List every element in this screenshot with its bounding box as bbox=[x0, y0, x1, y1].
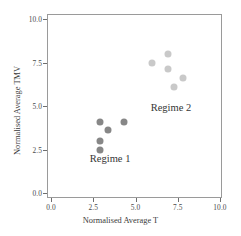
data-point bbox=[171, 83, 178, 90]
data-point bbox=[97, 137, 104, 144]
x-tick-label: 5.0 bbox=[131, 203, 141, 212]
data-point bbox=[179, 75, 186, 82]
y-tick-mark bbox=[43, 19, 47, 20]
x-tick-label: 10.0 bbox=[213, 203, 226, 212]
x-tick-label: 2.5 bbox=[88, 203, 98, 212]
cluster-label: Regime 1 bbox=[90, 153, 131, 164]
cluster-label: Regime 2 bbox=[151, 102, 192, 113]
data-point bbox=[164, 50, 171, 57]
data-point bbox=[97, 146, 104, 153]
data-point bbox=[149, 59, 156, 66]
x-tick-mark bbox=[51, 198, 52, 202]
x-tick-mark bbox=[93, 198, 94, 202]
x-tick-label: 7.5 bbox=[173, 203, 183, 212]
data-point bbox=[97, 118, 104, 125]
y-tick-mark bbox=[43, 193, 47, 194]
x-tick-mark bbox=[220, 198, 221, 202]
data-point bbox=[120, 118, 127, 125]
y-tick-label: 0.0 bbox=[32, 189, 42, 198]
y-tick-mark bbox=[43, 150, 47, 151]
y-axis-title: Normalised Average TMV bbox=[13, 31, 22, 191]
y-tick-label: 2.5 bbox=[32, 145, 42, 154]
data-point bbox=[164, 66, 171, 73]
y-tick-label: 5.0 bbox=[32, 102, 42, 111]
y-tick-label: 10.0 bbox=[29, 15, 42, 24]
plot-area bbox=[47, 14, 222, 198]
data-point bbox=[105, 127, 112, 134]
x-tick-mark bbox=[136, 198, 137, 202]
y-tick-mark bbox=[43, 106, 47, 107]
scatter-chart: 0.02.55.07.510.0 0.02.55.07.510.0 Regime… bbox=[0, 0, 241, 236]
y-tick-mark bbox=[43, 63, 47, 64]
y-tick-label: 7.5 bbox=[32, 58, 42, 67]
x-axis-title: Normalised Average T bbox=[0, 216, 241, 225]
x-tick-label: 0.0 bbox=[46, 203, 56, 212]
x-tick-mark bbox=[178, 198, 179, 202]
